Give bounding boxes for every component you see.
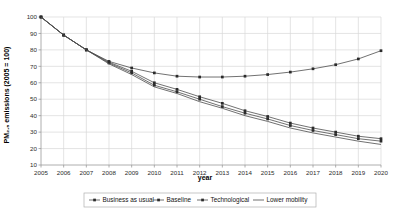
x-tick-label: 2020 — [374, 169, 388, 176]
series-data-point — [380, 140, 383, 143]
series-data-point — [221, 102, 224, 105]
legend-swatch-marker — [93, 199, 96, 202]
y-tick-label: 100 — [27, 13, 38, 20]
legend-swatch-marker — [157, 199, 160, 202]
series-data-point — [198, 95, 201, 98]
y-tick-label: 90 — [30, 30, 37, 37]
series-data-point — [244, 112, 247, 115]
series-data-point — [198, 76, 201, 79]
y-tick-label: 50 — [30, 95, 37, 102]
y-tick-label: 30 — [30, 128, 37, 135]
series-data-point — [176, 90, 179, 93]
series-data-point — [380, 137, 383, 140]
series-data-point — [380, 49, 383, 52]
grid-layer — [41, 17, 381, 165]
series-data-point — [289, 122, 292, 125]
series-line — [41, 17, 381, 77]
series-data-point — [153, 81, 156, 84]
series-technological — [40, 16, 383, 143]
y-tick-label: 40 — [30, 112, 37, 119]
x-tick-label: 2008 — [102, 169, 116, 176]
x-tick-label: 2010 — [147, 169, 161, 176]
series-data-point — [357, 58, 360, 61]
emissions-line-chart: 102030405060708090100 200520062007200820… — [0, 0, 400, 215]
y-tick-label: 70 — [30, 63, 37, 70]
series-data-point — [198, 98, 201, 101]
x-tick-label: 2016 — [283, 169, 297, 176]
series-data-point — [334, 133, 337, 136]
x-tick-label: 2011 — [170, 169, 184, 176]
x-tick-label: 2019 — [351, 169, 365, 176]
y-axis-title: PM₂.₅ emissions (2005 = 100) — [3, 47, 11, 144]
series-baseline — [40, 16, 383, 140]
axis-layer — [41, 17, 381, 165]
x-tick-label: 2015 — [261, 169, 275, 176]
x-axis-title: year — [198, 174, 213, 182]
series-business-as-usual — [40, 16, 383, 79]
series-layer — [40, 16, 383, 145]
series-data-point — [244, 109, 247, 112]
series-line — [41, 17, 381, 144]
legend-label: Lower mobility — [267, 196, 309, 204]
series-data-point — [357, 137, 360, 140]
y-axis-ticks: 102030405060708090100 — [27, 13, 41, 168]
series-data-point — [176, 88, 179, 91]
series-data-point — [289, 71, 292, 74]
series-data-point — [312, 127, 315, 130]
series-data-point — [266, 118, 269, 121]
series-data-point — [221, 105, 224, 108]
series-data-point — [289, 124, 292, 127]
series-data-point — [334, 63, 337, 66]
legend-swatch-marker — [201, 199, 204, 202]
legend-label: Baseline — [167, 196, 192, 203]
y-tick-label: 20 — [30, 145, 37, 152]
series-data-point — [221, 76, 224, 79]
x-tick-label: 2006 — [57, 169, 71, 176]
x-tick-label: 2014 — [238, 169, 252, 176]
series-line — [41, 17, 381, 139]
chart-legend: Business as usualBaselineTechnologicalLo… — [84, 193, 316, 207]
x-tick-label: 2009 — [125, 169, 139, 176]
series-data-point — [266, 73, 269, 76]
x-tick-label: 2005 — [34, 169, 48, 176]
chart-container: 102030405060708090100 200520062007200820… — [0, 0, 400, 215]
series-data-point — [312, 129, 315, 132]
series-data-point — [130, 67, 133, 70]
y-tick-label: 60 — [30, 79, 37, 86]
legend-label: Technological — [211, 196, 250, 204]
series-data-point — [357, 135, 360, 138]
x-tick-label: 2007 — [79, 169, 93, 176]
series-data-point — [334, 131, 337, 134]
series-line — [41, 17, 381, 141]
series-data-point — [266, 115, 269, 118]
series-data-point — [244, 75, 247, 78]
series-data-point — [153, 72, 156, 75]
series-data-point — [312, 67, 315, 70]
y-tick-label: 10 — [30, 161, 37, 168]
series-data-point — [176, 75, 179, 78]
y-tick-label: 80 — [30, 46, 37, 53]
x-tick-label: 2017 — [306, 169, 320, 176]
series-lower-mobility — [41, 17, 381, 144]
legend-label: Business as usual — [103, 196, 155, 203]
x-tick-label: 2018 — [329, 169, 343, 176]
x-tick-label: 2013 — [215, 169, 229, 176]
